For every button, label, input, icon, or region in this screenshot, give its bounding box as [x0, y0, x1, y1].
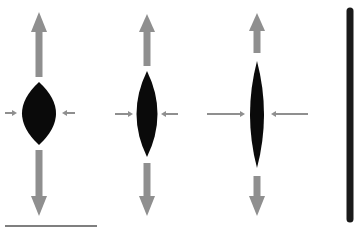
up-arrow-icon: [31, 12, 47, 32]
right-arrow-icon: [62, 110, 67, 116]
lens-2-panel: [115, 14, 178, 216]
lens-1-panel: [5, 12, 75, 216]
lens-shape: [250, 61, 264, 168]
left-arrow-icon: [240, 111, 245, 117]
down-arrow-shaft: [144, 163, 151, 196]
up-arrow-shaft: [144, 32, 151, 66]
down-arrow-shaft: [254, 176, 261, 196]
up-arrow-icon: [249, 13, 265, 31]
right-arrow-icon: [271, 111, 276, 117]
right-arrow-icon: [161, 111, 166, 117]
left-arrow-icon: [12, 110, 17, 116]
down-arrow-icon: [139, 196, 155, 216]
lens-shape: [22, 82, 56, 145]
lens-compression-diagram: [0, 0, 358, 235]
down-arrow-shaft: [36, 150, 43, 196]
left-arrow-icon: [128, 111, 133, 117]
down-arrow-icon: [31, 196, 47, 216]
up-arrow-shaft: [254, 31, 261, 53]
lens-3-panel: [207, 13, 308, 216]
lens-shape: [137, 71, 158, 157]
down-arrow-icon: [249, 196, 265, 216]
up-arrow-shaft: [36, 32, 43, 77]
up-arrow-icon: [139, 14, 155, 32]
lens-panels: [5, 12, 308, 216]
